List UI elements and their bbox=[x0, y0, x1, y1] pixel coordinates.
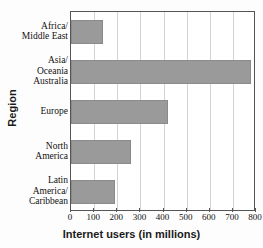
x-axis-tick-labels: 0100200300400500600700800 bbox=[70, 212, 255, 224]
x-axis-title: Internet users (in millions) bbox=[0, 228, 263, 240]
y-axis-category-label: Asia/OceaniaAustralia bbox=[16, 55, 68, 87]
category-label-line: Europe bbox=[16, 106, 68, 117]
y-axis-category-label: LatinAmerica/Caribbean bbox=[16, 175, 68, 207]
bar-chart-figure: Region Africa/Middle EastAsia/OceaniaAus… bbox=[0, 0, 263, 248]
gridline bbox=[210, 12, 211, 210]
category-label-line: Africa/ bbox=[16, 21, 68, 32]
category-label-line: America/ bbox=[16, 186, 68, 197]
gridline bbox=[233, 12, 234, 210]
x-axis-tick-mark bbox=[232, 208, 233, 212]
x-axis-tick-mark bbox=[255, 208, 256, 212]
bar bbox=[71, 20, 103, 44]
category-label-line: Latin bbox=[16, 175, 68, 186]
x-axis-tick-label: 100 bbox=[86, 212, 100, 222]
category-label-line: Caribbean bbox=[16, 196, 68, 207]
category-label-line: North bbox=[16, 141, 68, 152]
x-axis-tick-label: 600 bbox=[202, 212, 216, 222]
bar bbox=[71, 140, 131, 164]
x-axis-tick-label: 0 bbox=[68, 212, 73, 222]
category-label-line: Asia/ bbox=[16, 55, 68, 66]
x-axis-tick-label: 200 bbox=[110, 212, 124, 222]
x-axis-tick-label: 300 bbox=[133, 212, 147, 222]
y-axis-category-label: NorthAmerica bbox=[16, 141, 68, 162]
x-axis-tick-mark bbox=[70, 208, 71, 212]
bar bbox=[71, 180, 115, 204]
gridline bbox=[187, 12, 188, 210]
x-axis-tick-label: 800 bbox=[248, 212, 262, 222]
y-axis-category-labels: Africa/Middle EastAsia/OceaniaAustraliaE… bbox=[16, 11, 68, 211]
x-axis-tick-mark bbox=[209, 208, 210, 212]
x-axis-tick-mark bbox=[116, 208, 117, 212]
x-axis-tick-label: 400 bbox=[156, 212, 170, 222]
bar bbox=[71, 100, 168, 124]
bar bbox=[71, 60, 251, 84]
category-label-line: Australia bbox=[16, 76, 68, 87]
x-axis-tick-label: 500 bbox=[179, 212, 193, 222]
category-label-line: Oceania bbox=[16, 66, 68, 77]
x-axis-tick-mark bbox=[139, 208, 140, 212]
x-axis-tick-mark bbox=[93, 208, 94, 212]
x-axis-tick-mark bbox=[163, 208, 164, 212]
x-axis-tick-mark bbox=[186, 208, 187, 212]
y-axis-category-label: Africa/Middle East bbox=[16, 21, 68, 42]
x-axis-tick-label: 700 bbox=[225, 212, 239, 222]
y-axis-category-label: Europe bbox=[16, 106, 68, 117]
category-label-line: Middle East bbox=[16, 31, 68, 42]
plot-area bbox=[70, 11, 255, 211]
category-label-line: America bbox=[16, 151, 68, 162]
